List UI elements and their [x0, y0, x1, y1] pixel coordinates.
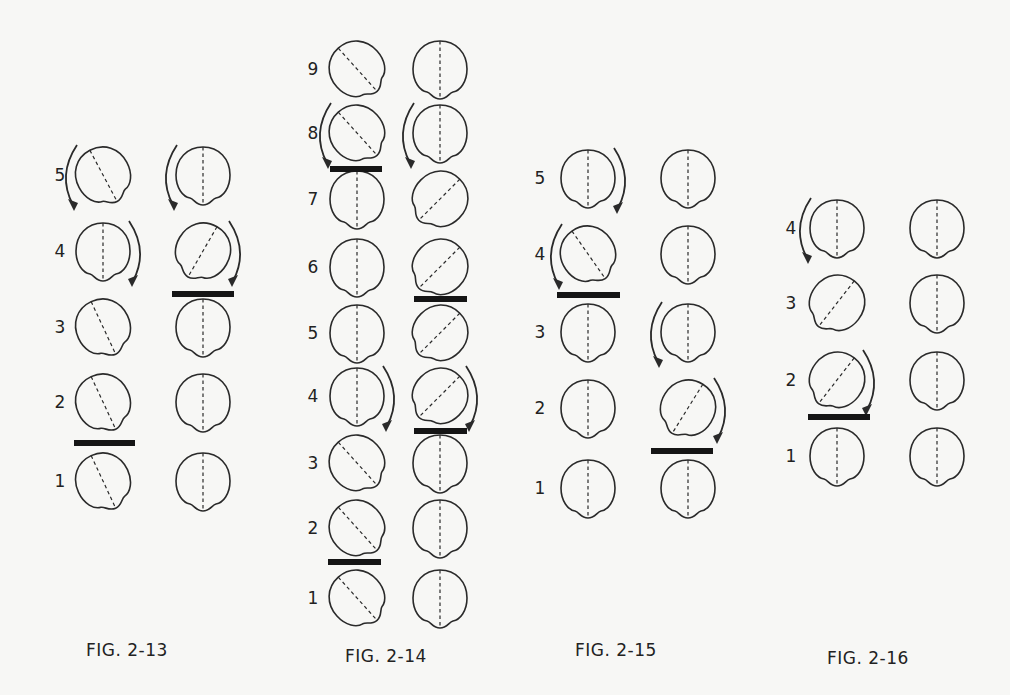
- division-bar: [74, 440, 135, 446]
- figure-caption: FIG. 2-15: [575, 640, 657, 660]
- seed-diagram: [390, 553, 490, 643]
- dashed-axis-line: [419, 376, 460, 417]
- seed-diagram: [153, 436, 253, 526]
- division-bar: [330, 166, 382, 172]
- seed-diagram: [638, 209, 738, 299]
- dashed-axis-line: [672, 384, 703, 433]
- dashed-axis-line: [419, 179, 460, 220]
- dashed-axis-line: [338, 48, 377, 91]
- dashed-axis-line: [91, 302, 116, 355]
- division-bar: [328, 559, 381, 565]
- dashed-axis-line: [419, 247, 460, 288]
- dashed-axis-line: [338, 577, 377, 620]
- seed-diagram: [538, 443, 638, 533]
- dashed-axis-line: [90, 150, 117, 201]
- division-bar: [651, 448, 713, 454]
- division-bar: [172, 291, 234, 297]
- division-bar: [414, 296, 467, 302]
- figure-caption: FIG. 2-16: [827, 648, 909, 668]
- figure-plate: 54321FIG. 2-13987654321FIG. 2-1454321FIG…: [0, 0, 1010, 695]
- dashed-axis-line: [819, 281, 855, 327]
- division-bar: [557, 292, 620, 298]
- seed-diagram: [53, 357, 153, 447]
- dashed-axis-line: [91, 377, 116, 430]
- division-bar: [808, 414, 870, 420]
- seed-diagram: [638, 443, 738, 533]
- dashed-axis-line: [338, 112, 377, 155]
- dashed-axis-line: [338, 442, 377, 485]
- seed-diagram: [53, 436, 153, 526]
- seed-diagram: [638, 363, 738, 453]
- seed-diagram: [538, 209, 638, 299]
- seed-diagram: [787, 411, 887, 501]
- dashed-axis-line: [819, 358, 855, 404]
- seed-diagram: [887, 411, 987, 501]
- dashed-axis-line: [572, 231, 605, 279]
- dashed-axis-line: [91, 456, 116, 509]
- seed-diagram: [538, 363, 638, 453]
- division-bar: [414, 428, 467, 434]
- figure-caption: FIG. 2-13: [86, 640, 168, 660]
- figure-caption: FIG. 2-14: [345, 646, 427, 666]
- dashed-axis-line: [419, 313, 460, 354]
- dashed-axis-line: [188, 227, 217, 277]
- dashed-axis-line: [338, 507, 377, 550]
- seed-diagram: [153, 357, 253, 447]
